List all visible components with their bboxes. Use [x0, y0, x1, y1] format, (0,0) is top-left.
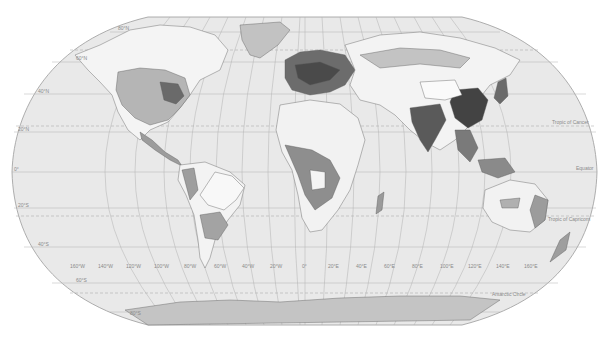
antarctic-circle-label: Antarctic Circle: [492, 291, 526, 297]
svg-text:60°E: 60°E: [384, 263, 396, 269]
svg-text:160°W: 160°W: [70, 263, 85, 269]
svg-text:20°S: 20°S: [18, 202, 30, 208]
svg-text:20°N: 20°N: [18, 126, 30, 132]
svg-text:140°W: 140°W: [98, 263, 113, 269]
svg-text:100°W: 100°W: [154, 263, 169, 269]
world-map: 80°N 60°N 40°N 20°N 0° 20°S 40°S 60°S 80…: [0, 0, 609, 347]
svg-text:80°E: 80°E: [412, 263, 424, 269]
svg-text:0°: 0°: [14, 166, 19, 172]
svg-text:80°S: 80°S: [130, 310, 142, 316]
svg-text:80°N: 80°N: [118, 25, 130, 31]
svg-text:40°S: 40°S: [38, 241, 50, 247]
svg-text:40°E: 40°E: [356, 263, 368, 269]
svg-text:100°E: 100°E: [440, 263, 454, 269]
svg-text:140°E: 140°E: [496, 263, 510, 269]
tropic-of-capricorn-label: Tropic of Capricorn: [548, 216, 591, 222]
equator-label: Equator: [576, 165, 594, 171]
svg-text:0°: 0°: [302, 263, 307, 269]
svg-text:60°W: 60°W: [214, 263, 227, 269]
svg-text:60°S: 60°S: [76, 277, 88, 283]
svg-text:120°E: 120°E: [468, 263, 482, 269]
longitude-labels: 160°W 140°W 120°W 100°W 80°W 60°W 40°W 2…: [70, 263, 538, 269]
svg-text:40°W: 40°W: [242, 263, 255, 269]
tropic-of-cancer-label: Tropic of Cancer: [552, 119, 589, 125]
svg-text:60°N: 60°N: [76, 55, 88, 61]
svg-text:20°W: 20°W: [270, 263, 283, 269]
svg-text:80°W: 80°W: [184, 263, 197, 269]
svg-text:120°W: 120°W: [126, 263, 141, 269]
svg-text:20°E: 20°E: [328, 263, 340, 269]
svg-text:160°E: 160°E: [524, 263, 538, 269]
svg-text:40°N: 40°N: [38, 88, 50, 94]
